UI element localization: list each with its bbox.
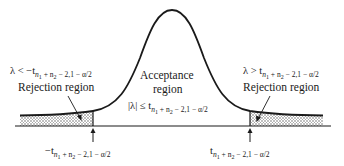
- right-rejection-title: Rejection region: [243, 82, 319, 94]
- acceptance-title-line2: region: [153, 84, 182, 96]
- left-rejection-title: Rejection region: [18, 82, 94, 94]
- right-critical-value-label: tn1 + n2 − 2,1 − α/2: [210, 146, 270, 157]
- left-critical-value-label: −tn1 + n2 − 2,1 − α/2: [45, 146, 110, 157]
- right-critical-arrow: [248, 128, 253, 142]
- left-rejection-condition: λ < −tn1 + n2 − 2,1 − α/2: [10, 66, 92, 77]
- left-critical-arrow: [91, 128, 96, 142]
- right-rejection-condition: λ > tn1 + n2 − 2,1 − α/2: [243, 66, 319, 77]
- bell-curve: [20, 10, 323, 116]
- acceptance-condition: |λ| ≤ tn1 + n2 − 2,1 − α/2: [128, 101, 208, 112]
- acceptance-title-line1: Acceptance: [140, 70, 194, 82]
